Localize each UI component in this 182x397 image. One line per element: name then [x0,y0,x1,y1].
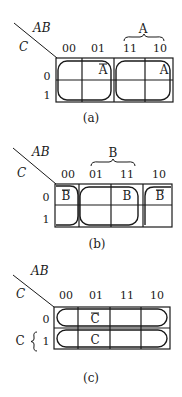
caption: (b) [88,237,105,251]
cell-label-c: C [90,333,99,347]
brace-icon [31,332,37,351]
col-header: 01 [89,168,103,181]
col-header: 11 [120,168,134,181]
cell-label-b-bar: B [62,189,71,203]
row-brace-label-c: C [15,334,24,348]
row-header: 0 [43,191,50,204]
group-loop [57,309,167,326]
row-header: 0 [44,70,51,83]
col-header: 11 [120,289,134,302]
row-header: 1 [43,335,50,348]
corner-label-c: C [19,40,28,54]
kmap-c: AB C 00 01 11 10 0 1 C C C (c) [13,264,170,385]
col-header: 10 [153,42,167,55]
cell-label-a-bar: A [98,63,108,77]
row-header: 0 [43,313,50,326]
caption: (a) [83,111,100,125]
row-header: 1 [43,213,50,226]
cell-label-b-bar: B [156,189,165,203]
corner-label-ab: AB [32,21,51,35]
col-header: 00 [59,289,73,302]
col-header: 01 [89,289,103,302]
col-header: 10 [152,168,166,181]
brace-icon [91,159,135,166]
brace-label-a: A [138,22,148,36]
cell-label-a: A [159,63,169,77]
corner-label-ab: AB [30,264,49,278]
brace-icon [124,34,164,41]
col-header: 00 [62,42,76,55]
row-header: 1 [44,89,51,102]
kmap-a: AB C A 00 01 11 10 0 1 A A (a) [14,21,173,125]
corner-label-ab: AB [31,145,50,159]
caption: (c) [83,371,99,385]
group-loop [57,330,167,347]
col-header: 00 [61,168,75,181]
col-header: 10 [150,289,164,302]
cell-label-b: B [123,189,132,203]
corner-label-c: C [16,287,25,301]
cell-label-c-bar: C [90,312,99,326]
col-header: 01 [91,42,105,55]
karnaugh-map-figure: AB C A 00 01 11 10 0 1 A A (a) AB C B 00… [0,0,182,397]
corner-label-c: C [17,166,26,180]
col-header: 11 [123,42,137,55]
kmap-b: AB C B 00 01 11 10 0 1 B B B (b) [13,145,172,251]
